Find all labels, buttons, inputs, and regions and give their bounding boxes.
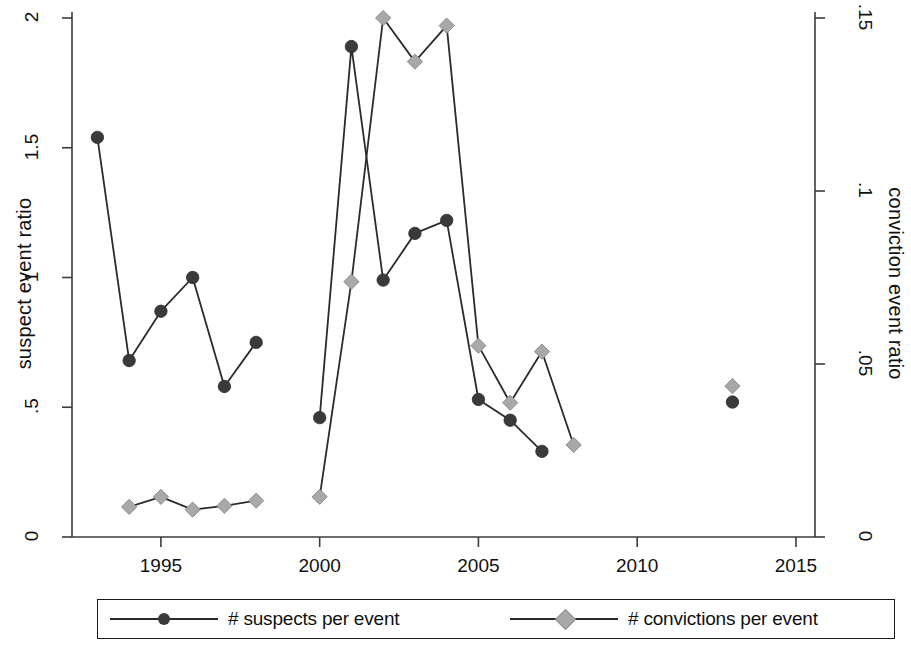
data-point-convictions-1995: [153, 489, 168, 504]
data-point-suspects-1993: [91, 131, 103, 143]
y-axis-right-tick-2: .1: [854, 160, 876, 220]
data-point-suspects-2007: [536, 445, 548, 457]
data-point-suspects-1998: [250, 336, 262, 348]
data-point-convictions-2013: [725, 379, 740, 394]
data-point-convictions-2006: [503, 395, 518, 410]
y-axis-left-tick-1: .5: [21, 376, 43, 436]
data-point-convictions-2002: [376, 10, 391, 25]
legend-swatch-convictions: [510, 609, 618, 629]
y-axis-right-tick-1: .05: [854, 333, 876, 393]
diamond-marker-icon: [555, 609, 576, 630]
data-point-convictions-2001: [344, 274, 359, 289]
data-point-suspects-2001: [345, 40, 357, 52]
data-point-convictions-1997: [217, 498, 232, 513]
data-point-convictions-2008: [566, 437, 581, 452]
legend-item-convictions: # convictions per event: [510, 600, 818, 638]
legend-item-suspects: # suspects per event: [110, 600, 399, 638]
data-point-suspects-2006: [504, 414, 516, 426]
data-point-suspects-2000: [313, 411, 325, 423]
chart-plot-area: [0, 0, 911, 648]
x-axis-tick-0: 1995: [121, 555, 201, 577]
data-point-convictions-2007: [534, 344, 549, 359]
data-point-suspects-2004: [440, 214, 452, 226]
y-axis-left-tick-0: 0: [21, 506, 43, 566]
data-point-suspects-1995: [155, 305, 167, 317]
x-axis-tick-2: 2005: [438, 555, 518, 577]
data-point-suspects-2005: [472, 393, 484, 405]
y-axis-left-tick-3: 1.5: [21, 117, 43, 177]
y-axis-left-tick-2: 1: [21, 247, 43, 307]
data-point-suspects-2002: [377, 274, 389, 286]
data-point-suspects-2013: [726, 396, 738, 408]
x-axis-tick-1: 2000: [280, 555, 360, 577]
data-point-suspects-1994: [123, 354, 135, 366]
chart-figure: suspect event ratio conviction event rat…: [0, 0, 911, 648]
axis-ticks: [62, 18, 825, 547]
x-axis-tick-3: 2010: [597, 555, 677, 577]
data-point-suspects-1996: [186, 271, 198, 283]
x-axis-tick-4: 2015: [756, 555, 836, 577]
series-0-segment-1-line: [320, 47, 542, 452]
series-0-segment-0-line: [97, 137, 256, 386]
legend-swatch-suspects: [110, 609, 218, 629]
y-axis-right-title: conviction event ratio: [884, 169, 907, 399]
legend-label-suspects: # suspects per event: [228, 608, 399, 630]
y-axis-right-tick-0: 0: [854, 506, 876, 566]
data-point-convictions-2000: [312, 489, 327, 504]
data-point-convictions-1996: [185, 502, 200, 517]
series-markers: [91, 10, 740, 517]
data-point-convictions-1998: [249, 493, 264, 508]
legend-label-convictions: # convictions per event: [628, 608, 818, 630]
axis-lines: [72, 12, 815, 537]
y-axis-right-tick-3: .15: [854, 0, 876, 47]
data-point-convictions-1994: [122, 499, 137, 514]
data-point-suspects-2003: [409, 227, 421, 239]
data-point-convictions-2005: [471, 338, 486, 353]
circle-marker-icon: [158, 613, 170, 625]
y-axis-left-tick-4: 2: [21, 0, 43, 47]
series-lines: [97, 18, 573, 510]
chart-legend: # suspects per event # convictions per e…: [97, 599, 895, 639]
data-point-suspects-1997: [218, 380, 230, 392]
